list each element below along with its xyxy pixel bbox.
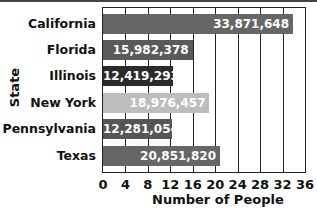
x-tick-label: 36 [293, 177, 317, 192]
category-label: California [28, 14, 96, 34]
category-label: New York [30, 93, 96, 113]
bar-texas: 20,851,820 [103, 146, 220, 166]
x-tick-label: 4 [113, 177, 137, 192]
plot-area: 33,871,64815,982,37812,419,29318,976,457… [102, 7, 306, 173]
x-tick-label: 32 [271, 177, 295, 192]
x-tick-label: 20 [203, 177, 227, 192]
category-label: Illinois [49, 66, 96, 86]
x-tick-label: 16 [181, 177, 205, 192]
top-border [0, 0, 317, 2]
x-tick-label: 8 [136, 177, 160, 192]
category-label: Pennsylvania [2, 119, 96, 139]
x-tick-label: 24 [226, 177, 250, 192]
x-axis-label: Number of People [152, 192, 284, 207]
bar-california: 33,871,648 [103, 14, 293, 34]
x-tick-label: 12 [158, 177, 182, 192]
category-label: Florida [47, 40, 96, 60]
bar-new-york: 18,976,457 [103, 93, 209, 113]
category-label: Texas [57, 146, 96, 166]
x-tick-label: 28 [248, 177, 272, 192]
y-axis-label: State [7, 68, 22, 108]
bar-florida: 15,982,378 [103, 40, 193, 60]
bar-illinois: 12,419,293 [103, 66, 173, 86]
bar-pennsylvania: 12,281,054 [103, 119, 172, 139]
x-tick-label: 0 [91, 177, 115, 192]
